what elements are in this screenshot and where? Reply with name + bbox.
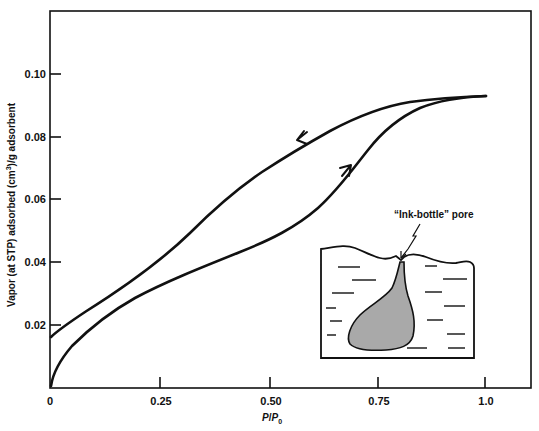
x-tick-label: 0.50 [260, 395, 281, 407]
y-axis-tick-labels: 0.10 0.08 0.06 0.04 0.02 [25, 68, 47, 331]
x-tick-label: 0 [47, 395, 53, 407]
desorption-arrow-icon [297, 131, 307, 144]
isotherm-chart: 0.10 0.08 0.06 0.04 0.02 0 0.25 0.50 0.7… [0, 0, 539, 431]
adsorption-arrow-icon [340, 165, 351, 176]
x-tick-label: 0.75 [368, 395, 389, 407]
pore-pointer-arrow-icon [401, 224, 420, 258]
y-tick-label: 0.02 [25, 319, 46, 331]
y-axis-ticks [50, 74, 61, 325]
ink-bottle-pore-label: “Ink-bottle” pore [394, 209, 474, 220]
y-tick-label: 0.10 [25, 68, 46, 80]
x-axis-ticks [160, 377, 485, 388]
x-axis-tick-labels: 0 0.25 0.50 0.75 1.0 [47, 395, 494, 407]
ink-bottle-pore-inset: “Ink-bottle” pore [321, 209, 474, 358]
y-tick-label: 0.04 [25, 256, 47, 268]
x-tick-label: 1.0 [478, 395, 493, 407]
y-tick-label: 0.08 [25, 131, 46, 143]
y-axis-title: Vapor (at STP) adsorbed (cm3)/g adsorben… [5, 102, 17, 307]
y-tick-label: 0.06 [25, 193, 46, 205]
x-axis-title: P/P0 [262, 412, 282, 425]
x-tick-label: 0.25 [150, 395, 171, 407]
